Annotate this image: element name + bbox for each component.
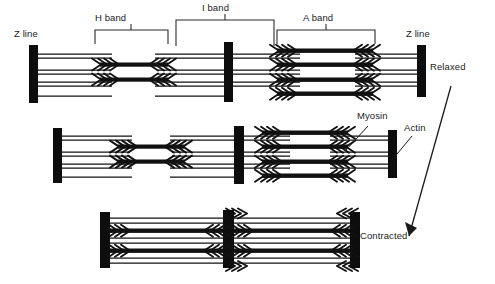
myosin-filament [118,145,184,164]
actin-filaments [36,54,226,96]
a-band-label: A band [303,12,333,23]
i-band-label: I band [202,2,229,13]
contracted-label: Contracted [360,230,407,241]
sarcomere-svg [0,0,495,284]
a-band-bracket [277,24,375,44]
h-band-bracket [95,24,168,44]
label-leader-lines [346,126,412,160]
relaxed-to-contracted-arrow [405,86,451,236]
h-band-label: H band [95,12,126,23]
z-line-block [417,45,426,97]
row-intermediate [53,126,397,184]
myosin-filament [277,49,373,96]
z-line-block [224,42,233,102]
z-line-block [388,130,397,178]
relaxed-label: Relaxed [430,61,466,72]
myosin-crossbridges [255,127,355,182]
myosin-label: Myosin [357,110,388,121]
diagram-canvas: H band I band A band Z line Z line Myosi… [0,0,495,284]
row-contracted [100,209,360,272]
i-band-bracket [176,14,274,46]
actin-label: Actin [404,122,426,133]
myosin-crossbridges [270,45,380,100]
z-line-label-right: Z line [406,28,430,39]
row-relaxed [29,42,426,103]
z-line-block [350,212,360,268]
z-line-block [100,212,110,268]
actin-filaments [60,136,236,177]
z-line-block [234,126,244,184]
z-line-label-left: Z line [14,28,38,39]
